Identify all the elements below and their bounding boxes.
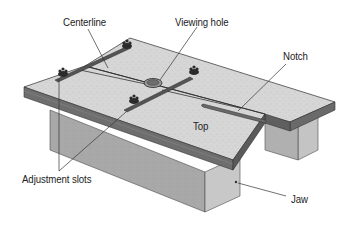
knob-back-left (58, 67, 68, 77)
bench-jig-diagram (0, 0, 356, 225)
leader-jaw (238, 183, 286, 196)
label-viewing-hole: Viewing hole (175, 16, 229, 28)
label-adjustment-slots: Adjustment slots (22, 173, 91, 185)
label-notch: Notch (283, 50, 308, 62)
viewing-hole (144, 79, 162, 88)
label-jaw: Jaw (291, 193, 308, 205)
label-top: Top (193, 120, 208, 132)
label-centerline: Centerline (63, 16, 106, 28)
